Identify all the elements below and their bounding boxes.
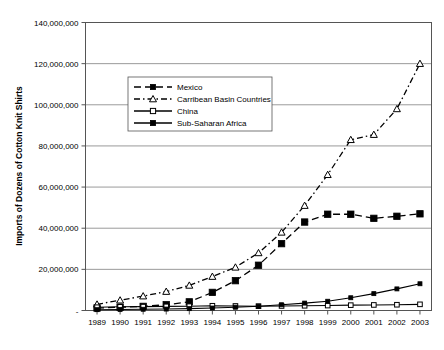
data-point-marker	[395, 287, 399, 291]
data-point-marker	[187, 307, 191, 311]
data-point-marker	[348, 211, 354, 217]
x-tick-label: 2001	[365, 318, 383, 327]
y-tick-label: 120,000,000	[34, 60, 79, 69]
x-tick-label: 1990	[111, 318, 129, 327]
legend-item-label: Mexico	[177, 83, 203, 92]
data-point-marker	[209, 289, 215, 295]
data-point-marker	[278, 240, 284, 246]
data-point-marker	[232, 264, 239, 270]
line-chart: Imports of Dozens of Cotton Knit Shirts …	[0, 0, 444, 350]
x-tick-label: 1998	[296, 318, 314, 327]
data-point-marker	[118, 307, 122, 311]
x-tick-label: 1994	[203, 318, 221, 327]
data-point-marker	[349, 296, 353, 300]
x-tick-label: 1999	[319, 318, 337, 327]
data-point-marker	[418, 282, 422, 286]
x-tick-label: 1995	[227, 318, 245, 327]
data-point-marker	[140, 293, 147, 299]
data-point-marker	[417, 211, 423, 217]
data-point-marker	[257, 304, 261, 308]
data-point-marker	[418, 302, 423, 307]
y-tick-label: 140,000,000	[34, 19, 79, 28]
data-point-marker	[393, 105, 400, 111]
x-tick-label: 1991	[134, 318, 152, 327]
y-axis-title: Imports of Dozens of Cotton Knit Shirts	[14, 86, 24, 246]
data-point-marker	[150, 120, 155, 125]
data-point-marker	[209, 273, 216, 279]
x-tick-label: 2003	[411, 318, 429, 327]
y-tick-label: 80,000,000	[38, 142, 79, 151]
gridlines	[86, 23, 432, 270]
x-tick-label: 1997	[273, 318, 291, 327]
y-axis: -20,000,00040,000,00060,000,00080,000,00…	[34, 19, 86, 316]
data-point-marker	[233, 305, 237, 309]
data-point-marker	[95, 308, 99, 312]
data-point-marker	[325, 303, 330, 308]
x-tick-label: 2002	[388, 318, 406, 327]
data-point-marker	[370, 131, 377, 137]
data-point-marker	[303, 301, 307, 305]
data-point-marker	[395, 302, 400, 307]
data-point-marker	[150, 108, 155, 113]
y-tick-label: 60,000,000	[38, 183, 79, 192]
data-point-marker	[325, 211, 331, 217]
x-tick-label: 1992	[157, 318, 175, 327]
y-tick-label: 40,000,000	[38, 224, 79, 233]
data-point-marker	[232, 277, 238, 283]
y-tick-label: 100,000,000	[34, 101, 79, 110]
legend-item-label: China	[177, 107, 198, 116]
data-point-marker	[348, 303, 353, 308]
data-point-marker	[371, 215, 377, 221]
legend-item-label: Carribean Basin Countries	[177, 95, 271, 104]
data-point-marker	[301, 202, 308, 208]
y-tick-label: -	[76, 307, 79, 316]
data-point-marker	[117, 297, 124, 303]
data-point-marker	[210, 306, 214, 310]
x-tick-label: 2000	[342, 318, 360, 327]
data-point-marker	[150, 84, 155, 89]
y-tick-label: 20,000,000	[38, 265, 79, 274]
data-point-marker	[164, 307, 168, 311]
data-point-marker	[141, 307, 145, 311]
legend-item-label: Sub-Saharan Africa	[177, 119, 247, 128]
x-tick-label: 1989	[88, 318, 106, 327]
x-axis: 1989199019911992199319941995199619971998…	[88, 311, 429, 327]
data-point-marker	[280, 303, 284, 307]
data-point-marker	[326, 299, 330, 303]
data-point-marker	[372, 292, 376, 296]
chart-legend: MexicoCarribean Basin CountriesChinaSub-…	[128, 77, 272, 131]
data-point-marker	[301, 219, 307, 225]
data-point-marker	[372, 303, 377, 308]
data-point-marker	[394, 213, 400, 219]
x-tick-label: 1993	[180, 318, 198, 327]
data-point-marker	[255, 262, 261, 268]
data-point-marker	[255, 249, 262, 255]
x-tick-label: 1996	[250, 318, 268, 327]
chart-container: Imports of Dozens of Cotton Knit Shirts …	[0, 0, 444, 350]
